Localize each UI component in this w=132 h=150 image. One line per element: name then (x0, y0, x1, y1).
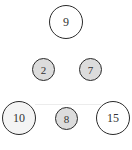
node-7: 7 (79, 58, 102, 81)
node-label: 15 (107, 111, 119, 126)
node-label: 8 (64, 113, 70, 125)
node-9: 9 (49, 5, 83, 39)
node-label: 10 (13, 111, 25, 126)
node-10: 10 (2, 101, 36, 135)
node-label: 9 (63, 15, 69, 30)
connector-line (35, 104, 101, 105)
node-label: 2 (41, 64, 47, 76)
node-2: 2 (32, 58, 55, 81)
node-8: 8 (55, 107, 78, 130)
node-label: 7 (88, 64, 94, 76)
node-15: 15 (96, 101, 130, 135)
